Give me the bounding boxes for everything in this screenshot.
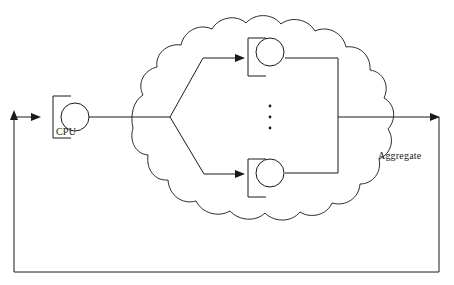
edge-worker-top-to-collector	[285, 58, 338, 117]
arrowhead-icon	[31, 113, 41, 121]
aggregate-label: Aggregate	[378, 150, 421, 161]
worker-node-top[interactable]	[248, 38, 284, 76]
edge-collector-to-feedback	[338, 113, 440, 121]
arrowhead-up-icon	[10, 110, 18, 120]
edge-worker-bottom-to-collector	[285, 117, 338, 173]
diagram-svg	[0, 0, 454, 285]
edge-fanout-to-worker-top	[170, 54, 245, 117]
worker-bottom-circle-icon	[256, 159, 284, 187]
vertical-ellipsis-icon	[269, 105, 272, 130]
diagram-canvas: CPU Aggregate	[0, 0, 454, 285]
cpu-label: CPU	[56, 126, 76, 137]
edge-fanout-to-worker-bottom	[170, 117, 245, 178]
arrowhead-icon	[235, 54, 245, 62]
worker-node-bottom[interactable]	[248, 159, 284, 197]
arrowhead-icon	[235, 170, 245, 178]
worker-top-circle-icon	[256, 38, 284, 66]
cloud-shape	[132, 16, 394, 220]
